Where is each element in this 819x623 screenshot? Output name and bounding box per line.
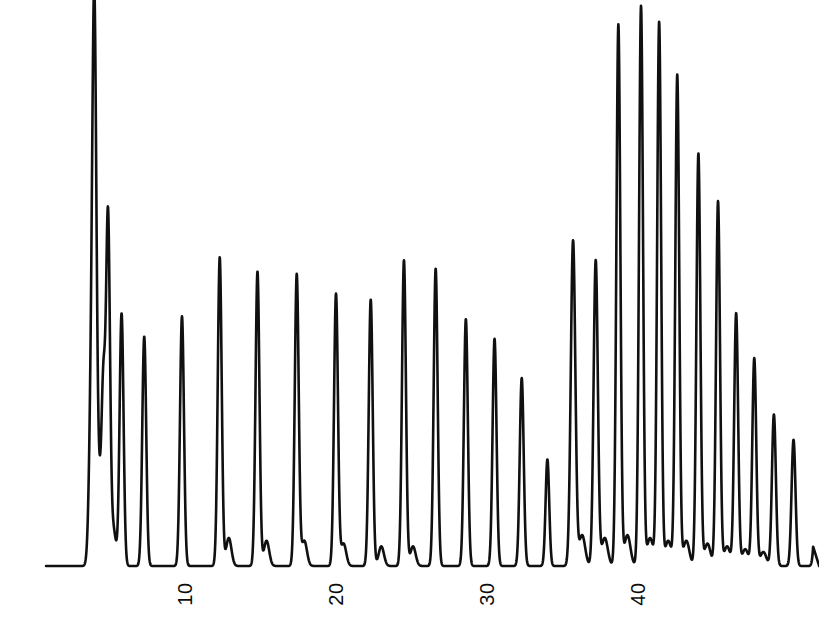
chromatogram-figure: 10203040 [0,0,819,623]
chromatogram-plot [0,0,819,623]
